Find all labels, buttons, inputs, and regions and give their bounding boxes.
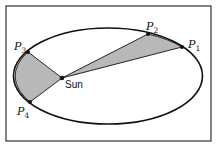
- kepler-orbit-diagram: Sun P1 P2 P3 P4: [0, 0, 218, 148]
- sun-point: [60, 76, 65, 81]
- sun-label: Sun: [65, 79, 83, 90]
- point-p1: [180, 45, 184, 49]
- point-p4: [28, 100, 32, 104]
- point-p3: [26, 50, 30, 54]
